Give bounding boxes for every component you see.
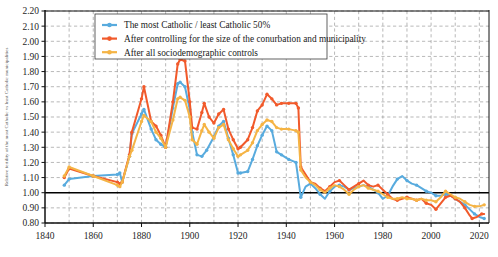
data-point: [200, 129, 203, 132]
data-point: [183, 59, 186, 62]
data-point: [280, 102, 283, 105]
data-point: [200, 155, 203, 158]
data-point: [425, 190, 428, 193]
data-point: [212, 137, 215, 140]
data-point: [63, 174, 66, 177]
data-point: [92, 174, 95, 177]
data-point: [309, 180, 312, 183]
y-tick-label: 1.00: [22, 188, 39, 198]
data-point: [357, 182, 360, 185]
data-point: [176, 62, 179, 65]
data-point: [121, 180, 124, 183]
data-point: [280, 127, 283, 130]
data-point: [251, 141, 254, 144]
data-point: [434, 194, 437, 197]
data-point: [212, 121, 215, 124]
y-tick-label: 1.50: [22, 112, 39, 122]
data-point: [232, 147, 235, 150]
data-point: [203, 123, 206, 126]
data-point: [239, 153, 242, 156]
data-point: [222, 123, 225, 126]
data-point: [396, 197, 399, 200]
data-point: [195, 143, 198, 146]
data-point: [207, 115, 210, 118]
data-point: [470, 217, 473, 220]
data-point: [297, 130, 300, 133]
data-point: [205, 149, 208, 152]
data-point: [154, 130, 157, 133]
data-point: [434, 200, 437, 203]
data-point: [246, 138, 249, 141]
y-tick-label: 2.10: [22, 22, 39, 32]
y-tick-label: 1.60: [22, 97, 39, 107]
data-point: [191, 138, 194, 141]
legend-item-label: After controlling for the size of the co…: [124, 34, 366, 44]
data-point: [118, 185, 121, 188]
data-point: [473, 205, 476, 208]
data-point: [149, 120, 152, 123]
data-point: [463, 206, 466, 209]
data-point: [130, 130, 133, 133]
y-tick-label: 1.30: [22, 143, 39, 153]
y-tick-label: 1.40: [22, 128, 39, 138]
data-point: [287, 158, 290, 161]
data-point: [246, 170, 249, 173]
data-point: [270, 129, 273, 132]
data-point: [444, 196, 447, 199]
y-tick-label: 2.20: [22, 6, 39, 16]
x-tick-label: 1940: [277, 231, 296, 241]
data-point: [425, 199, 428, 202]
data-point: [140, 120, 143, 123]
data-point: [265, 118, 268, 121]
data-point: [287, 102, 290, 105]
data-point: [256, 129, 259, 132]
data-point: [128, 155, 131, 158]
data-point: [444, 190, 447, 193]
data-point: [338, 185, 341, 188]
data-point: [376, 190, 379, 193]
data-point: [357, 185, 360, 188]
data-point: [222, 120, 225, 123]
fertility-ratio-chart: 2.202.102.001.901.801.701.601.501.401.30…: [0, 0, 498, 257]
x-axis-labels: 1840186018801900192019401960198020002020: [36, 223, 490, 241]
data-point: [287, 127, 290, 130]
data-point: [275, 103, 278, 106]
data-point: [195, 127, 198, 130]
data-point: [200, 111, 203, 114]
data-point: [171, 100, 174, 103]
data-point: [130, 149, 133, 152]
legend-swatch-marker: [107, 50, 112, 55]
data-point: [299, 168, 302, 171]
data-point: [294, 102, 297, 105]
data-point: [140, 97, 143, 100]
data-point: [239, 171, 242, 174]
x-tick-label: 2020: [470, 231, 489, 241]
data-point: [232, 138, 235, 141]
data-point: [142, 85, 145, 88]
data-point: [217, 112, 220, 115]
legend-swatch-marker: [107, 23, 112, 28]
data-point: [347, 193, 350, 196]
x-tick-label: 1960: [325, 231, 344, 241]
data-point: [405, 179, 408, 182]
y-tick-label: 1.10: [22, 173, 39, 183]
chart-canvas: 2.202.102.001.901.801.701.601.501.401.30…: [0, 0, 498, 257]
x-tick-label: 1840: [36, 231, 55, 241]
data-point: [207, 130, 210, 133]
data-point: [265, 93, 268, 96]
data-point: [188, 115, 191, 118]
data-point: [227, 138, 230, 141]
data-point: [118, 171, 121, 174]
legend-swatch-marker: [107, 36, 112, 41]
data-point: [142, 114, 145, 117]
data-point: [482, 217, 485, 220]
data-point: [256, 109, 259, 112]
data-point: [297, 106, 300, 109]
data-point: [347, 188, 350, 191]
data-point: [260, 133, 263, 136]
data-point: [222, 108, 225, 111]
data-point: [275, 126, 278, 129]
data-point: [251, 158, 254, 161]
data-point: [318, 188, 321, 191]
x-tick-label: 2000: [422, 231, 441, 241]
